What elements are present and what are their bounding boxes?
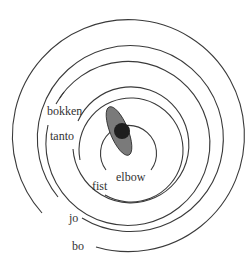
label-elbow: elbow — [116, 170, 146, 184]
head-circle — [114, 123, 130, 139]
ring-bokken-top-arc — [60, 92, 64, 98]
label-tanto: tanto — [50, 129, 74, 143]
label-jo: jo — [68, 211, 78, 225]
label-bo: bo — [72, 239, 84, 253]
range-rings-diagram: bo jo bokken tanto fist elbow — [0, 0, 249, 265]
label-bokken: bokken — [47, 104, 82, 118]
label-fist: fist — [92, 179, 108, 193]
